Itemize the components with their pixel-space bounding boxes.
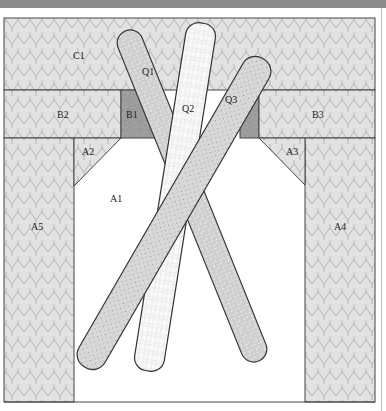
label-B3: B3 — [312, 109, 324, 120]
geology-diagram: C1 B2 B1 B3 A2 A3 A1 A5 A4 Q1 Q2 Q3 — [0, 0, 386, 411]
label-Q3: Q3 — [225, 94, 237, 105]
region-A5 — [4, 138, 74, 402]
label-A2: A2 — [82, 146, 94, 157]
region-A4 — [305, 138, 375, 402]
label-A3: A3 — [286, 146, 298, 157]
label-A4: A4 — [334, 221, 346, 232]
label-B1: B1 — [126, 109, 138, 120]
label-A5: A5 — [31, 221, 43, 232]
label-A1: A1 — [110, 193, 122, 204]
label-Q2: Q2 — [182, 103, 194, 114]
label-Q1: Q1 — [142, 66, 154, 77]
label-B2: B2 — [57, 109, 69, 120]
label-C1: C1 — [73, 50, 85, 61]
